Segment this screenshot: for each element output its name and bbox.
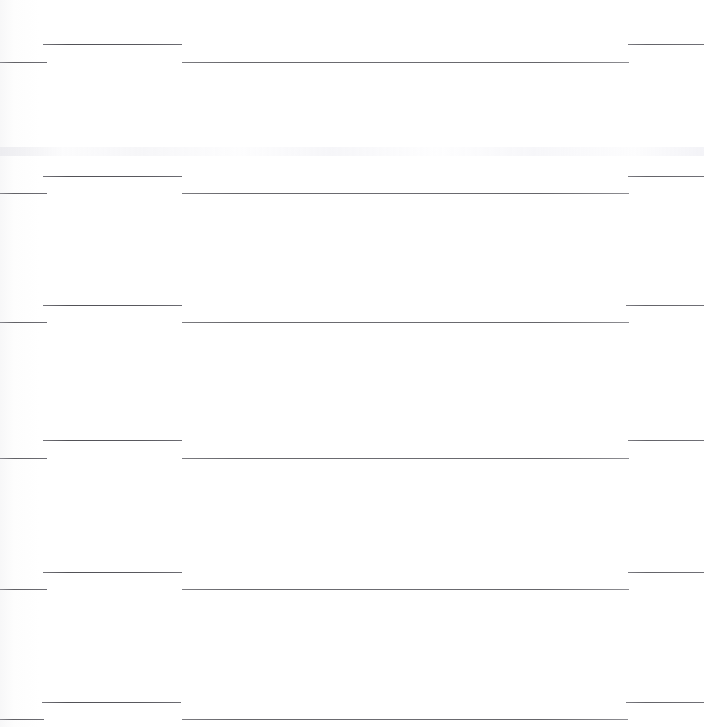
rule-line-6-right-stub (626, 702, 704, 703)
rule-line-6-upper-rule (42, 702, 181, 703)
rule-line-4-upper-rule (43, 440, 182, 441)
rule-line-1-upper-rule (43, 44, 182, 45)
rule-line-6-left-stub (0, 719, 44, 720)
rule-line-6-long-rule (182, 719, 628, 720)
rule-line-2-right-stub (628, 176, 704, 177)
rule-line-1-left-stub (0, 62, 47, 63)
rule-line-3-right-stub (626, 305, 704, 306)
rule-line-4-long-rule (182, 458, 629, 459)
rule-line-4-right-stub (628, 440, 704, 441)
document-page (0, 0, 704, 727)
rule-line-5-upper-rule (43, 572, 182, 573)
rule-line-5-right-stub (628, 572, 704, 573)
rule-line-2-upper-rule (43, 176, 182, 177)
rule-line-3-left-stub (0, 322, 47, 323)
ghost-band (0, 147, 704, 156)
rule-line-2-left-stub (0, 193, 47, 194)
rule-line-1-right-stub (628, 44, 704, 45)
rule-line-3-long-rule (182, 322, 629, 323)
rule-line-3-upper-rule (43, 305, 182, 306)
rule-line-4-left-stub (0, 458, 47, 459)
rule-line-5-long-rule (182, 589, 629, 590)
rule-line-1-long-rule (182, 62, 629, 63)
rule-line-5-left-stub (0, 589, 47, 590)
rule-line-2-long-rule (182, 193, 629, 194)
